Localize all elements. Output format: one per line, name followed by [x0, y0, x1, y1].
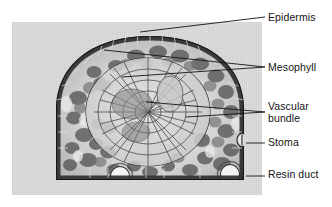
label-mesophyll: Mesophyll [268, 62, 316, 74]
label-vascular-bundle-line1: Vascular [268, 100, 309, 112]
micrograph-figure: Epidermis Mesophyll Vascularbundle Stoma… [0, 0, 332, 207]
micrograph-plate [12, 22, 262, 195]
cross-section-drawing [50, 32, 250, 184]
label-vascular-bundle-line2: bundle [268, 112, 300, 124]
label-stoma: Stoma [268, 137, 299, 149]
label-resin-duct: Resin duct [268, 169, 319, 181]
label-epidermis: Epidermis [268, 12, 316, 24]
film-grain [50, 32, 250, 184]
label-vascular-bundle: Vascularbundle [268, 101, 309, 124]
needle-cross-section [50, 32, 250, 184]
mesophyll-region [50, 32, 250, 184]
